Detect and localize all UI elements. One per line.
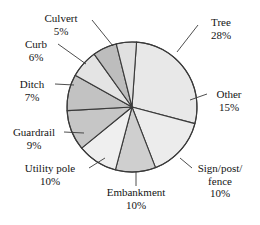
pie-label-embankment: Embankment 10%	[92, 186, 180, 211]
pie-label-other-name: Other	[206, 88, 252, 101]
pie-slice-group	[67, 42, 197, 172]
pie-label-guardrail-value: 9%	[2, 139, 66, 152]
pie-label-other: Other 15%	[206, 88, 252, 113]
pie-label-culvert-value: 5%	[30, 25, 92, 38]
pie-label-ditch: Ditch 7%	[8, 78, 56, 103]
leader-line-curb	[58, 44, 86, 64]
pie-label-utility-pole-value: 10%	[10, 175, 90, 188]
pie-label-embankment-value: 10%	[92, 199, 180, 212]
pie-label-sign-post-fence-name: Sign/post/	[186, 162, 254, 175]
pie-label-curb: Curb 6%	[11, 38, 61, 63]
pie-label-curb-value: 6%	[11, 51, 61, 64]
pie-label-tree: Tree 28%	[200, 16, 242, 41]
pie-label-culvert: Culvert 5%	[30, 12, 92, 37]
pie-label-culvert-name: Culvert	[30, 12, 92, 25]
leader-line-culvert	[92, 20, 113, 46]
pie-label-sign-post-fence-value: 10%	[186, 187, 254, 200]
pie-label-guardrail-name: Guardrail	[2, 126, 66, 139]
pie-label-tree-value: 28%	[200, 29, 242, 42]
pie-label-guardrail: Guardrail 9%	[2, 126, 66, 151]
pie-chart-figure: Culvert 5% Curb 6% Ditch 7% Guardrail 9%…	[0, 0, 260, 225]
pie-label-curb-name: Curb	[11, 38, 61, 51]
leader-line-tree	[177, 25, 198, 52]
pie-label-utility-pole-name: Utility pole	[10, 162, 90, 175]
pie-label-embankment-name: Embankment	[92, 186, 180, 199]
pie-label-ditch-value: 7%	[8, 91, 56, 104]
pie-label-ditch-name: Ditch	[8, 78, 56, 91]
pie-label-sign-post-fence: Sign/post/ fence 10%	[186, 162, 254, 200]
pie-label-sign-post-fence-name2: fence	[186, 175, 254, 188]
pie-label-tree-name: Tree	[200, 16, 242, 29]
pie-label-utility-pole: Utility pole 10%	[10, 162, 90, 187]
pie-label-other-value: 15%	[206, 101, 252, 114]
